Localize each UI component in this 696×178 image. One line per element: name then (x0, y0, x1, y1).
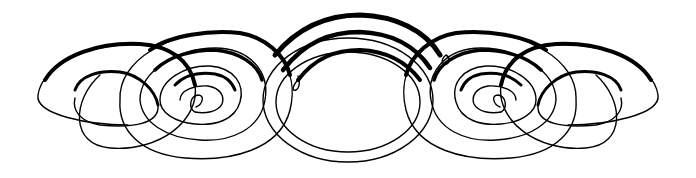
right-inner-spiral (404, 32, 576, 159)
left-inner-spiral (120, 32, 292, 159)
calligraphic-flourish-ornament (0, 0, 696, 178)
central-oval (263, 15, 440, 162)
